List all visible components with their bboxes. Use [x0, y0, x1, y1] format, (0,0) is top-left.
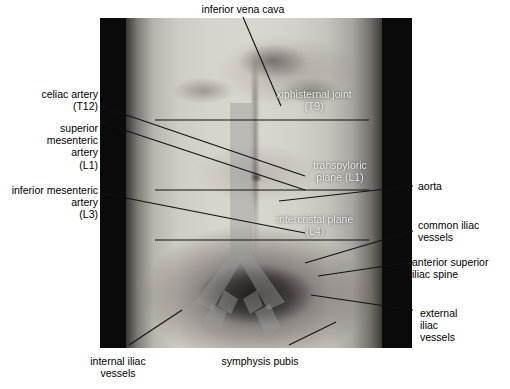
label-common-iliac-vessels: common iliac vessels	[418, 219, 508, 243]
label-aorta: aorta	[418, 180, 508, 192]
label-transpyloric-plane: transpyloric plane (L1)	[288, 159, 392, 183]
label-celiac-artery: celiac artery (T12)	[10, 88, 98, 112]
label-internal-iliac-vessels: internal iliac vessels	[62, 355, 174, 379]
label-symphysis-pubis: symphysis pubis	[196, 355, 324, 367]
label-xiphisternal-joint: xiphisternal joint (T9)	[258, 88, 370, 112]
photo-left-border	[100, 18, 126, 348]
label-anterior-superior-iliac-spine: anterior superior iliac spine	[412, 256, 510, 280]
label-superior-mesenteric-artery: superior mesenteric artery (L1)	[10, 122, 98, 171]
label-external-iliac-vessels: external iliac vessels	[420, 307, 506, 344]
umbilicus	[250, 173, 263, 182]
label-inferior-vena-cava: inferior vena cava	[180, 3, 306, 15]
chest-shading	[225, 38, 321, 84]
label-inferior-mesenteric-artery: inferior mesenteric artery (L3)	[2, 184, 98, 221]
anatomy-figure: inferior vena cava celiac artery (T12) s…	[0, 0, 510, 389]
pubic-region-shading	[181, 262, 331, 340]
label-intercristal-plane: intercristal plane (L4)	[256, 213, 374, 237]
